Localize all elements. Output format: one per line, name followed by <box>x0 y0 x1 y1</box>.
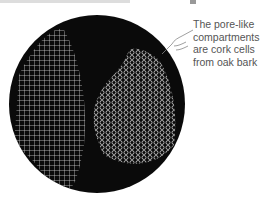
pointing-hand-icon <box>160 26 196 58</box>
microscope-field <box>9 15 185 193</box>
cork-cells-illustration <box>9 15 185 193</box>
figure-caption: The pore-like compartments are cork cell… <box>193 18 266 68</box>
cropped-heading-text <box>0 0 266 2</box>
